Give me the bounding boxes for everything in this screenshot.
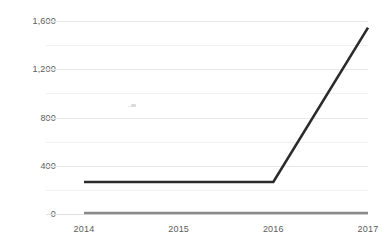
- x-axis-tick-label: 2014: [54, 224, 114, 234]
- scan-artifact-speck: [131, 104, 136, 107]
- line-chart: 04008001,2001,600 2014201520162017: [0, 0, 385, 249]
- series-lines: [46, 21, 368, 214]
- scan-artifact-speck-tail: [128, 106, 131, 107]
- plot-area: [46, 21, 368, 214]
- series-line-1: [84, 28, 368, 182]
- x-axis-tick-label: 2016: [243, 224, 303, 234]
- x-axis-tick-label: 2017: [338, 224, 385, 234]
- x-axis-tick-label: 2015: [149, 224, 209, 234]
